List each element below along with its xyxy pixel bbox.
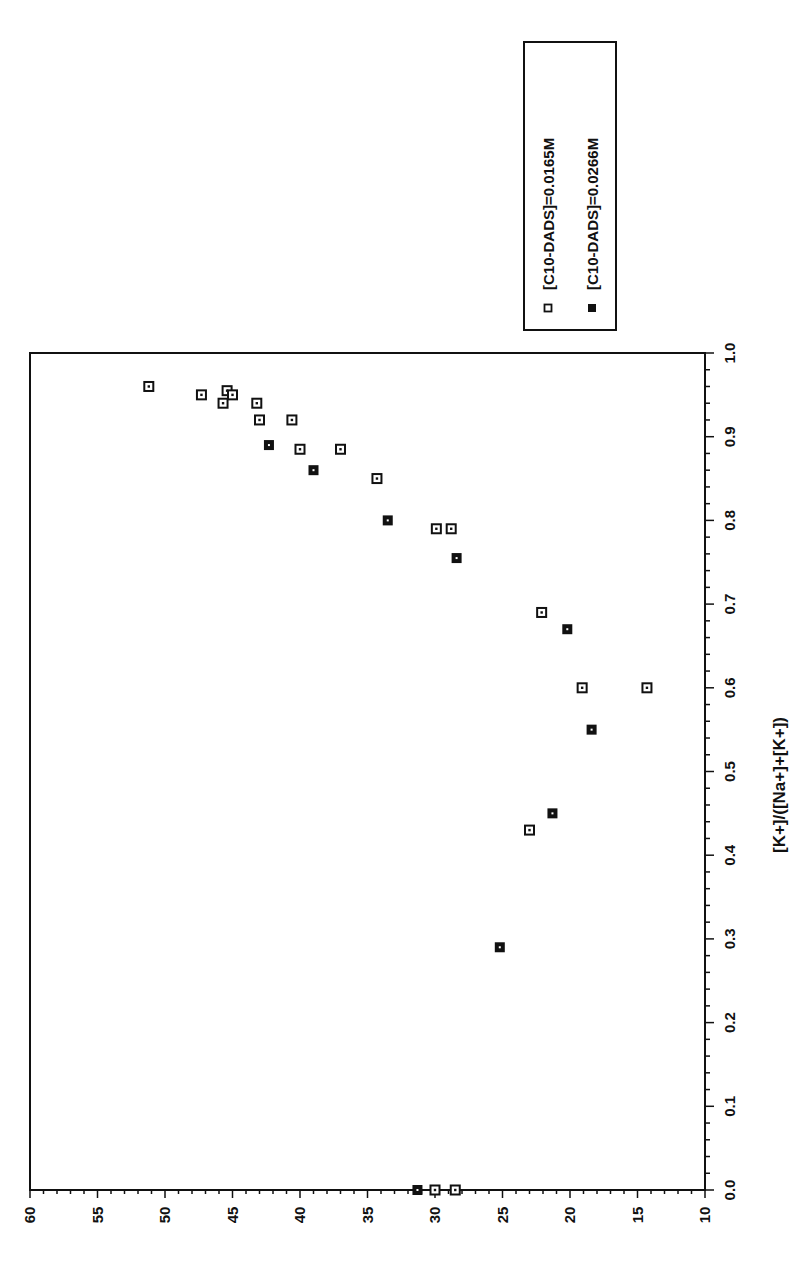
data-point	[452, 553, 462, 563]
data-point	[431, 1186, 440, 1195]
x-tick-label: 0.2	[721, 1012, 738, 1033]
x-tick-label: 0.0	[721, 1180, 738, 1201]
data-point	[642, 683, 651, 692]
y-tick-label: 40	[291, 1207, 308, 1224]
y-tick-label: 35	[359, 1207, 376, 1224]
y-tick-label: 45	[224, 1207, 241, 1224]
y-tick-label: 55	[89, 1207, 106, 1224]
scatter-chart: 60555045403530252015100.00.10.20.30.40.5…	[0, 0, 809, 1271]
data-point	[264, 440, 274, 450]
y-tick-label: 30	[426, 1207, 443, 1224]
legend-box	[524, 42, 616, 330]
x-tick-label: 0.9	[721, 426, 738, 447]
x-tick-label: 0.8	[721, 510, 738, 531]
plot-frame	[30, 353, 705, 1190]
x-tick-label: 0.7	[721, 594, 738, 615]
y-tick-label: 60	[21, 1207, 38, 1224]
x-tick-label: 0.1	[721, 1096, 738, 1117]
data-point	[197, 390, 206, 399]
y-tick-label: 25	[494, 1207, 511, 1224]
data-point	[447, 524, 456, 533]
x-tick-label: 1.0	[721, 343, 738, 364]
legend-label: [C10-DADS]=0.0165M	[540, 138, 557, 290]
data-point	[252, 399, 261, 408]
data-point	[228, 390, 237, 399]
data-point	[336, 445, 345, 454]
data-point	[287, 415, 296, 424]
data-point	[578, 683, 587, 692]
x-tick-label: 0.3	[721, 928, 738, 949]
x-tick-label: 0.6	[721, 677, 738, 698]
plot-area: 60555045403530252015100.00.10.20.30.40.5…	[21, 343, 789, 1224]
data-point	[383, 515, 393, 525]
x-tick-label: 0.4	[721, 844, 738, 866]
data-point	[562, 624, 572, 634]
data-point	[525, 826, 534, 835]
y-tick-label: 20	[561, 1207, 578, 1224]
data-point	[587, 725, 597, 735]
data-point	[255, 415, 264, 424]
y-tick-label: 10	[696, 1207, 713, 1224]
data-point	[495, 942, 505, 952]
data-point	[537, 608, 546, 617]
legend-marker-open	[545, 305, 552, 312]
data-point	[547, 808, 557, 818]
data-point	[412, 1185, 422, 1195]
legend-marker-filled	[588, 304, 596, 312]
data-point	[219, 399, 228, 408]
x-tick-label: 0.5	[721, 761, 738, 782]
y-tick-label: 15	[629, 1207, 646, 1224]
y-tick-label: 50	[156, 1207, 173, 1224]
data-point	[144, 382, 153, 391]
legend-label: [C10-DADS]=0.0266M	[584, 138, 601, 290]
data-point	[309, 465, 319, 475]
legend: [C10-DADS]=0.0165M[C10-DADS]=0.0266M	[524, 42, 616, 330]
x-axis-title: [K+]/([Na+]+[K+])	[770, 717, 789, 853]
data-point	[451, 1186, 460, 1195]
data-point	[432, 524, 441, 533]
data-point	[372, 474, 381, 483]
data-point	[296, 445, 305, 454]
